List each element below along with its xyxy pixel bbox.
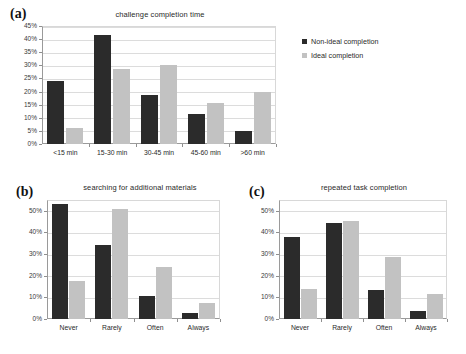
y-tick-mark xyxy=(39,26,42,27)
y-tick-label: 10% xyxy=(241,294,274,301)
panel-b-title: searching for additional materials xyxy=(44,183,236,192)
y-tick-label: 20% xyxy=(4,89,37,96)
gridline xyxy=(43,79,275,80)
x-tick-label: Always xyxy=(405,325,447,332)
legend-label-non-ideal: Non-ideal completion xyxy=(311,36,379,47)
bar[interactable] xyxy=(207,103,224,144)
y-tick-mark xyxy=(44,297,47,298)
x-tick-mark xyxy=(90,319,91,322)
x-tick-label: 15-30 min xyxy=(89,150,136,157)
gridline xyxy=(280,255,446,256)
y-tick-mark xyxy=(276,319,279,320)
bar[interactable] xyxy=(95,245,111,319)
bar[interactable] xyxy=(301,289,317,319)
x-tick-label: Always xyxy=(177,325,220,332)
x-tick-mark xyxy=(447,319,448,322)
y-tick-label: 50% xyxy=(241,208,274,215)
bar[interactable] xyxy=(139,296,155,319)
y-tick-label: 20% xyxy=(9,273,42,280)
bar[interactable] xyxy=(66,128,83,144)
bar[interactable] xyxy=(343,221,359,319)
x-tick-label: Often xyxy=(134,325,177,332)
x-tick-label: 45-60 min xyxy=(182,150,229,157)
y-tick-label: 20% xyxy=(241,273,274,280)
y-tick-label: 10% xyxy=(9,294,42,301)
x-tick-label: <15 min xyxy=(42,150,89,157)
bar[interactable] xyxy=(368,290,384,319)
panel-c-title: repeated task completion xyxy=(283,183,445,192)
bar[interactable] xyxy=(52,204,68,319)
x-tick-label: Rarely xyxy=(321,325,363,332)
y-tick-label: 35% xyxy=(4,49,37,56)
y-tick-mark xyxy=(276,297,279,298)
x-tick-mark xyxy=(229,144,230,147)
x-tick-mark xyxy=(182,144,183,147)
panel-a-letter: (a) xyxy=(10,6,26,22)
y-tick-label: 15% xyxy=(4,102,37,109)
y-tick-label: 40% xyxy=(241,229,274,236)
bar[interactable] xyxy=(284,237,300,319)
gridline xyxy=(280,233,446,234)
gridline xyxy=(43,40,275,41)
x-tick-mark xyxy=(363,319,364,322)
bar[interactable] xyxy=(47,81,64,144)
bar[interactable] xyxy=(235,131,252,144)
bar[interactable] xyxy=(385,257,401,319)
x-tick-label: Often xyxy=(363,325,405,332)
y-tick-mark xyxy=(276,276,279,277)
panel-b: (b) searching for additional materials 0… xyxy=(0,176,235,354)
bar[interactable] xyxy=(427,294,443,319)
x-tick-mark xyxy=(276,144,277,147)
y-tick-mark xyxy=(39,131,42,132)
y-tick-mark xyxy=(276,232,279,233)
x-tick-mark xyxy=(405,319,406,322)
panel-a-plot-area xyxy=(42,26,276,144)
y-tick-mark xyxy=(44,319,47,320)
gridline xyxy=(280,276,446,277)
bar[interactable] xyxy=(199,303,215,319)
bar[interactable] xyxy=(156,267,172,319)
gridline xyxy=(48,233,219,234)
y-tick-label: 30% xyxy=(4,62,37,69)
y-tick-mark xyxy=(39,144,42,145)
y-tick-mark xyxy=(39,105,42,106)
bar[interactable] xyxy=(188,114,205,144)
y-tick-mark xyxy=(44,232,47,233)
bar[interactable] xyxy=(160,65,177,144)
x-tick-label: Never xyxy=(47,325,90,332)
panel-b-letter: (b) xyxy=(16,184,33,200)
bar[interactable] xyxy=(182,313,198,319)
x-tick-label: Never xyxy=(279,325,321,332)
bar[interactable] xyxy=(254,92,271,144)
gridline xyxy=(48,276,219,277)
x-tick-mark xyxy=(177,319,178,322)
bar[interactable] xyxy=(113,69,130,144)
x-tick-mark xyxy=(134,319,135,322)
gridline xyxy=(48,255,219,256)
bar[interactable] xyxy=(69,281,85,319)
gridline xyxy=(43,66,275,67)
gridline xyxy=(43,53,275,54)
y-tick-label: 50% xyxy=(9,208,42,215)
y-tick-mark xyxy=(44,254,47,255)
x-tick-mark xyxy=(321,319,322,322)
gridline xyxy=(43,27,275,28)
y-tick-mark xyxy=(39,92,42,93)
bar[interactable] xyxy=(141,95,158,144)
y-tick-label: 0% xyxy=(9,316,42,323)
y-tick-label: 40% xyxy=(9,229,42,236)
panel-c: (c) repeated task completion 0%10%20%30%… xyxy=(235,176,466,354)
x-tick-mark xyxy=(89,144,90,147)
bar[interactable] xyxy=(112,209,128,319)
y-tick-mark xyxy=(39,65,42,66)
x-tick-label: >60 min xyxy=(229,150,276,157)
bar[interactable] xyxy=(94,35,111,144)
gridline xyxy=(43,118,275,119)
bar[interactable] xyxy=(410,311,426,319)
bar[interactable] xyxy=(326,223,342,319)
y-tick-mark xyxy=(44,276,47,277)
gridline xyxy=(280,211,446,212)
y-tick-label: 0% xyxy=(4,141,37,148)
y-tick-label: 40% xyxy=(4,36,37,43)
y-tick-label: 45% xyxy=(4,23,37,30)
